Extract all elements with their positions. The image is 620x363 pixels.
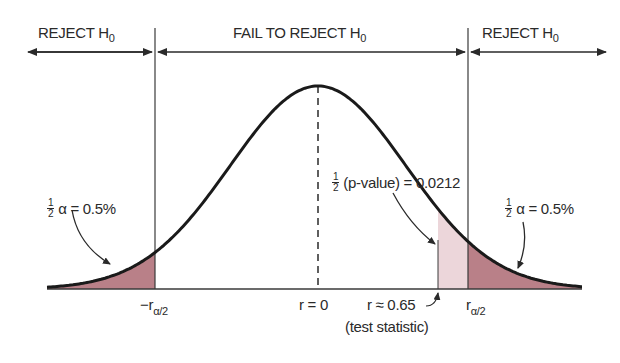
neg-critical-label: −rα/2 xyxy=(140,296,168,317)
right-region-sub: 0 xyxy=(553,32,559,44)
right-alpha-pointer xyxy=(518,222,525,268)
left-region-sub: 0 xyxy=(109,32,115,44)
middle-region-sub: 0 xyxy=(360,32,366,44)
right-alpha-annotation: 12α = 0.5% xyxy=(505,198,574,219)
half-fraction: 12 xyxy=(505,198,512,219)
middle-region-label: FAIL TO REJECT H0 xyxy=(233,24,366,44)
test-stat-pointer xyxy=(426,293,438,306)
right-region-text: REJECT H xyxy=(482,24,553,41)
test-stat-note: (test statistic) xyxy=(345,318,429,335)
left-region-label: REJECT H0 xyxy=(38,24,115,44)
left-alpha-text: α = 0.5% xyxy=(58,200,116,217)
half-fraction: 12 xyxy=(332,172,339,193)
pvalue-pointer xyxy=(393,193,435,244)
pvalue-text: (p-value) = 0.0212 xyxy=(343,174,460,191)
pos-critical-label: rα/2 xyxy=(466,296,485,317)
right-rejection-area xyxy=(468,242,582,290)
middle-region-text: FAIL TO REJECT H xyxy=(233,24,360,41)
right-region-label: REJECT H0 xyxy=(482,24,559,44)
left-region-text: REJECT H xyxy=(38,24,109,41)
half-fraction: 12 xyxy=(47,198,54,219)
pvalue-area xyxy=(438,209,468,289)
left-alpha-annotation: 12α = 0.5% xyxy=(47,198,116,219)
right-alpha-text: α = 0.5% xyxy=(516,200,574,217)
test-stat-label: r ≈ 0.65 xyxy=(367,296,415,313)
center-label: r = 0 xyxy=(299,296,328,313)
bell-curve xyxy=(47,86,582,287)
pvalue-annotation: 12(p-value) = 0.0212 xyxy=(332,172,460,193)
